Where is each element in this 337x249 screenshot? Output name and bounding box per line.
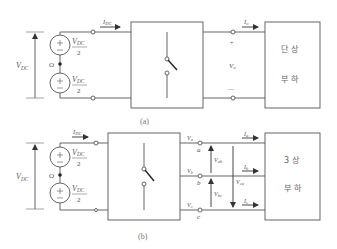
panel-b — [26, 133, 320, 220]
midpoint-node — [58, 173, 62, 177]
midpoint-node — [58, 62, 62, 66]
svg-text:Ia: Ia — [243, 131, 249, 138]
svg-text:Vbc: Vbc — [214, 191, 222, 198]
terminal — [95, 209, 98, 212]
svg-text:Vo: Vo — [229, 62, 236, 70]
svg-text:3 상: 3 상 — [284, 155, 300, 165]
svg-text:VDC: VDC — [72, 184, 85, 193]
switch-blade-icon — [168, 60, 177, 70]
svg-text:IDC: IDC — [72, 128, 82, 136]
svg-text:+: + — [230, 40, 234, 46]
svg-text:Vca: Vca — [236, 179, 245, 186]
svg-text:VDC: VDC — [72, 37, 85, 46]
svg-text:c: c — [197, 213, 201, 221]
svg-text:2: 2 — [77, 160, 81, 168]
svg-text:IDC: IDC — [102, 18, 112, 26]
terminal-a — [198, 141, 202, 145]
terminal — [231, 96, 235, 100]
svg-text:(a): (a) — [140, 117, 149, 126]
panel-a — [26, 22, 320, 108]
svg-text:단 상: 단 상 — [281, 44, 299, 54]
terminal — [91, 96, 95, 100]
terminal-b — [198, 174, 202, 178]
svg-text:—: — — [227, 86, 235, 92]
svg-text:Ib: Ib — [243, 164, 249, 171]
svg-text:b: b — [197, 179, 201, 187]
svg-text:부 하: 부 하 — [284, 183, 302, 193]
svg-text:Vc: Vc — [187, 202, 193, 209]
svg-text:2: 2 — [77, 49, 81, 57]
switch-blade-icon — [145, 170, 154, 181]
svg-text:a: a — [197, 146, 201, 154]
svg-text:Va: Va — [187, 135, 194, 142]
three-phase-load-box — [265, 133, 320, 220]
svg-text:VDC: VDC — [16, 61, 29, 71]
svg-text:Vab: Vab — [214, 157, 223, 164]
switch-contact — [142, 182, 146, 186]
svg-text:Vb: Vb — [187, 168, 194, 175]
svg-text:O: O — [49, 172, 54, 180]
panel-a-labels: VDC VDC 2 VDC 2 O IDC Io + Vo — 단 상 부 하 … — [16, 18, 299, 126]
svg-text:O: O — [49, 61, 54, 69]
svg-text:2: 2 — [77, 196, 81, 204]
switch-contact — [165, 71, 169, 75]
terminal — [231, 30, 235, 34]
terminal — [91, 30, 95, 34]
single-phase-load-box — [265, 22, 320, 108]
svg-text:VDC: VDC — [16, 172, 29, 182]
svg-text:부 하: 부 하 — [281, 74, 299, 84]
terminal — [94, 141, 98, 145]
svg-text:VDC: VDC — [72, 75, 85, 84]
svg-text:2: 2 — [77, 87, 81, 95]
svg-text:Io: Io — [243, 18, 249, 26]
panel-b-labels: VDC VDC 2 VDC 2 O IDC Va a Vb b Vc c Vab… — [16, 128, 302, 241]
terminal-c — [198, 208, 202, 212]
inverter-diagram: VDC VDC 2 VDC 2 O IDC Io + Vo — 단 상 부 하 … — [0, 0, 337, 249]
svg-text:VDC: VDC — [72, 148, 85, 157]
svg-text:(b): (b) — [138, 232, 148, 241]
svg-text:Ic: Ic — [243, 198, 248, 205]
